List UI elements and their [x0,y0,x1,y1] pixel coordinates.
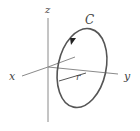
diagram-canvas: z x y C r [0,0,140,131]
y-axis-label: y [123,70,131,83]
x-axis-positive-segment [48,57,75,67]
radius-label: r [76,72,81,82]
x-axis-label: x [9,70,16,83]
z-axis-label: z [44,4,51,15]
curve-c-label: C [85,13,94,27]
radius-line [59,73,86,81]
curve-direction-arrow-icon [70,38,76,45]
y-axis [48,67,118,74]
x-axis [22,67,48,76]
